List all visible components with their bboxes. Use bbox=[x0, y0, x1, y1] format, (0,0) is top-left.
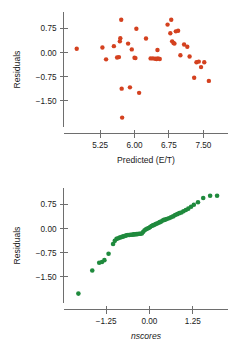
x-tick-label: −1.25 bbox=[96, 317, 117, 326]
data-point bbox=[130, 47, 134, 51]
data-point bbox=[169, 18, 173, 22]
data-point bbox=[106, 251, 111, 256]
data-point bbox=[199, 65, 203, 69]
y-tick-label: 0.75 bbox=[41, 24, 57, 33]
data-point bbox=[158, 57, 162, 61]
x-tick-label: 0.00 bbox=[141, 317, 157, 326]
data-point bbox=[172, 41, 176, 45]
y-tick-label: −1.50 bbox=[36, 97, 57, 106]
data-point bbox=[168, 31, 172, 35]
data-point bbox=[118, 36, 122, 40]
y-axis-title: Residuals bbox=[12, 51, 22, 89]
data-point bbox=[119, 18, 123, 22]
figure-container: 0.750.00−0.75−1.50Residuals5.256.006.757… bbox=[0, 0, 233, 352]
data-point bbox=[119, 86, 123, 90]
data-point bbox=[102, 258, 107, 263]
y-tick-label: 0.00 bbox=[41, 49, 57, 58]
data-point bbox=[165, 22, 169, 26]
y-axis-title: Residuals bbox=[12, 227, 22, 265]
data-point bbox=[104, 57, 108, 61]
y-tick-label: 0.75 bbox=[41, 200, 57, 209]
y-tick-label: −0.75 bbox=[36, 73, 57, 82]
data-point bbox=[155, 48, 159, 52]
data-point bbox=[144, 36, 148, 40]
data-point bbox=[128, 85, 132, 89]
data-point-group bbox=[76, 193, 219, 295]
x-tick-label: 7.50 bbox=[195, 141, 211, 150]
data-point bbox=[120, 115, 124, 119]
x-tick-label: 6.75 bbox=[161, 141, 177, 150]
data-point bbox=[134, 27, 138, 31]
data-point bbox=[215, 193, 220, 198]
data-point bbox=[201, 196, 206, 201]
normal-qq-panel: 0.750.00−0.75−1.50Residuals−1.250.001.25… bbox=[0, 176, 233, 352]
y-tick-label: −0.75 bbox=[36, 249, 57, 258]
data-point bbox=[178, 53, 182, 57]
data-point bbox=[137, 91, 141, 95]
x-tick-label: 5.25 bbox=[92, 141, 108, 150]
data-point bbox=[208, 193, 213, 198]
data-point-group bbox=[75, 18, 212, 120]
data-point bbox=[75, 47, 79, 51]
x-tick-label: 6.00 bbox=[127, 141, 143, 150]
y-tick-label: −1.50 bbox=[36, 273, 57, 282]
data-point bbox=[100, 45, 104, 49]
data-point bbox=[126, 41, 130, 45]
data-point bbox=[196, 200, 201, 205]
data-point bbox=[187, 54, 191, 58]
residuals-vs-predicted-plot: 0.750.00−0.75−1.50Residuals5.256.006.757… bbox=[0, 0, 233, 176]
data-point bbox=[176, 29, 180, 33]
normal-qq-plot: 0.750.00−0.75−1.50Residuals−1.250.001.25… bbox=[0, 176, 233, 352]
data-point bbox=[76, 291, 81, 296]
data-point bbox=[90, 268, 95, 273]
data-point bbox=[207, 79, 211, 83]
data-point bbox=[197, 59, 201, 63]
data-point bbox=[117, 55, 121, 59]
data-point bbox=[192, 76, 196, 80]
y-tick-label: 0.00 bbox=[41, 225, 57, 234]
x-tick-label: 1.25 bbox=[185, 317, 201, 326]
data-point bbox=[192, 203, 197, 208]
data-point bbox=[133, 56, 137, 60]
data-point bbox=[202, 60, 206, 64]
data-point bbox=[112, 44, 116, 48]
data-point bbox=[185, 45, 189, 49]
residuals-vs-predicted-panel: 0.750.00−0.75−1.50Residuals5.256.006.757… bbox=[0, 0, 233, 176]
x-axis-title: Predicted (E/T) bbox=[117, 155, 175, 165]
x-axis-title: nscores bbox=[131, 331, 162, 341]
